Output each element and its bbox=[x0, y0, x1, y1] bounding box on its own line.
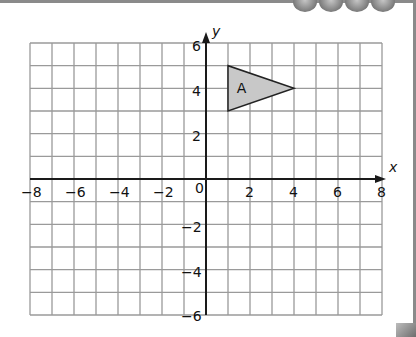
x-tick: 4 bbox=[289, 184, 298, 200]
x-tick: 2 bbox=[245, 184, 254, 200]
x-tick: −6 bbox=[65, 184, 86, 200]
y-axis-arrow-icon bbox=[202, 32, 210, 43]
y-tick: −6 bbox=[181, 308, 202, 324]
coordinate-grid: A x y 0 −8 −6 −4 −2 2 4 6 8 6 4 2 −2 −4 … bbox=[0, 0, 416, 337]
y-axis-label: y bbox=[211, 23, 221, 39]
y-tick: −4 bbox=[181, 264, 202, 280]
x-axis-arrow-icon bbox=[375, 175, 386, 183]
x-tick: −4 bbox=[109, 184, 130, 200]
triangle-a-label: A bbox=[237, 80, 247, 96]
x-tick: −8 bbox=[21, 184, 42, 200]
x-axis-label: x bbox=[388, 159, 398, 175]
y-tick: 2 bbox=[192, 128, 201, 144]
x-tick: −2 bbox=[153, 184, 174, 200]
y-tick: 4 bbox=[192, 83, 201, 99]
x-tick: 8 bbox=[377, 184, 386, 200]
y-tick: −2 bbox=[181, 219, 202, 235]
origin-label: 0 bbox=[195, 180, 204, 196]
x-tick: 6 bbox=[333, 184, 342, 200]
y-tick: 6 bbox=[192, 38, 201, 54]
